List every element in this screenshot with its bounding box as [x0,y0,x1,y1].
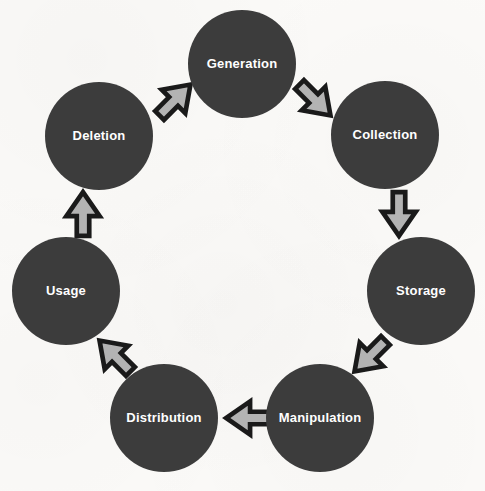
cycle-node-label: Distribution [126,411,201,425]
cycle-node-deletion[interactable]: Deletion [45,82,153,190]
cycle-node-label: Deletion [73,129,126,143]
cycle-node-label: Generation [207,57,278,71]
cycle-node-storage[interactable]: Storage [367,237,475,345]
cycle-node-label: Usage [46,284,86,298]
cycle-node-label: Collection [353,128,418,142]
cycle-diagram: Generation Collection Storage Manipulati… [0,0,485,491]
arrow-usage-to-deletion [57,188,109,240]
cycle-node-usage[interactable]: Usage [12,237,120,345]
cycle-node-manipulation[interactable]: Manipulation [266,364,374,472]
cycle-node-label: Manipulation [279,411,362,425]
cycle-node-label: Storage [396,284,446,298]
cycle-node-generation[interactable]: Generation [188,10,296,118]
cycle-node-collection[interactable]: Collection [331,81,439,189]
cycle-node-distribution[interactable]: Distribution [110,364,218,472]
arrow-collection-to-storage [373,188,425,240]
